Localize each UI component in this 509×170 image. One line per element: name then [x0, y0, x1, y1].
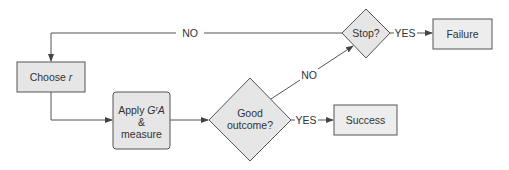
failure-label: Failure — [446, 28, 478, 40]
stop-yes-label: YES — [394, 27, 415, 39]
node-good-outcome: Good outcome? — [209, 78, 291, 161]
edge-choose-to-apply — [51, 92, 112, 120]
svg-text:Apply GʳA: Apply GʳA — [118, 104, 165, 116]
edge-good-no-to-stop: NO — [271, 46, 353, 99]
node-stop: Stop? — [342, 9, 390, 58]
good-yes-label: YES — [295, 114, 316, 126]
stop-label: Stop? — [352, 27, 380, 39]
node-failure: Failure — [433, 19, 492, 49]
stop-no-label: NO — [182, 27, 198, 39]
apply-label: Apply — [118, 104, 147, 116]
edge-stop-yes-to-failure: YES — [390, 27, 432, 39]
svg-text:Choose r: Choose r — [30, 71, 73, 83]
choose-label: Choose — [30, 71, 69, 83]
good-line1: Good — [237, 107, 263, 119]
node-apply-measure: Apply GʳA & measure — [113, 92, 170, 149]
apply-var: GʳA — [147, 104, 164, 116]
node-success: Success — [334, 105, 397, 135]
success-label: Success — [346, 114, 386, 126]
edge-good-yes-to-success: YES — [291, 114, 333, 126]
good-no-label: NO — [301, 69, 317, 81]
good-line2: outcome? — [227, 119, 273, 131]
flowchart: NO NO YES YES Choose r Apply GʳA & measu… — [0, 0, 509, 170]
edge-stop-no-loop: NO — [51, 27, 342, 61]
apply-measure-label: measure — [121, 128, 162, 140]
apply-ampersand: & — [138, 116, 145, 128]
node-choose-r: Choose r — [17, 62, 85, 92]
choose-var: r — [69, 71, 73, 83]
